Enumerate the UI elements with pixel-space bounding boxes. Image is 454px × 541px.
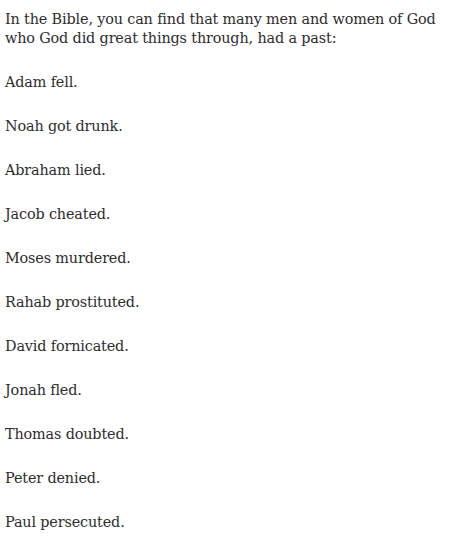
list-item: Rahab prostituted. <box>5 293 453 312</box>
list-item: Moses murdered. <box>5 249 453 268</box>
intro-paragraph: In the Bible, you can find that many men… <box>5 10 453 48</box>
list-item: Jacob cheated. <box>5 205 453 224</box>
list-item: Peter denied. <box>5 469 453 488</box>
list-item: Abraham lied. <box>5 161 453 180</box>
list-item: Thomas doubted. <box>5 425 453 444</box>
list-item: David fornicated. <box>5 337 453 356</box>
document-body: In the Bible, you can find that many men… <box>0 0 454 541</box>
list-item: Noah got drunk. <box>5 117 453 136</box>
list-item: Adam fell. <box>5 73 453 92</box>
list-item: Jonah fled. <box>5 381 453 400</box>
list-item: Paul persecuted. <box>5 513 453 532</box>
